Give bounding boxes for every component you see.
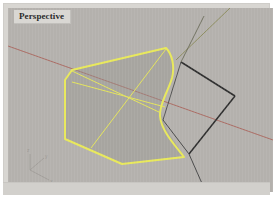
viewport-canvas[interactable]: z y x xyxy=(8,8,273,192)
y-axis-line xyxy=(176,8,230,60)
perspective-viewport[interactable]: z y x Perspective xyxy=(8,8,273,192)
edge-spur-up xyxy=(181,16,204,62)
edge-top-right xyxy=(181,62,235,96)
gizmo-y-axis-line xyxy=(30,158,44,170)
gizmo-y-label: y xyxy=(45,153,48,159)
viewport-frame: z y x Perspective xyxy=(3,3,270,193)
viewport-bottom-band xyxy=(3,182,270,195)
gizmo-z-label: z xyxy=(27,147,30,153)
gizmo-x-axis-line xyxy=(30,170,49,180)
edge-right-lower xyxy=(189,96,235,154)
viewport-title-tab[interactable]: Perspective xyxy=(14,10,71,24)
rhino-viewport-window: z y x Perspective xyxy=(0,0,273,202)
axis-gizmo: z y x xyxy=(27,147,53,184)
